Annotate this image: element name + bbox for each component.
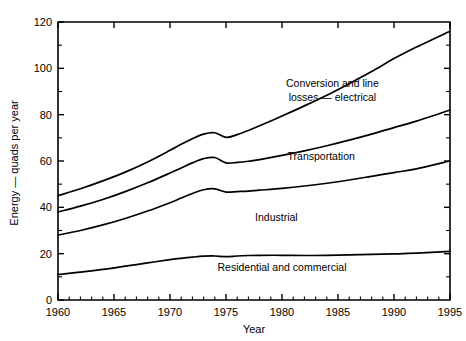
x-tick-label: 1995 — [438, 306, 462, 318]
series-annotation: Transportation — [288, 150, 355, 162]
x-axis-title: Year — [243, 323, 266, 335]
y-tick-label: 0 — [46, 294, 52, 306]
annotation-line-1: Residential and commercial — [218, 261, 347, 273]
x-tick-label: 1980 — [270, 306, 294, 318]
y-tick-label: 80 — [40, 109, 52, 121]
y-tick-label: 100 — [34, 62, 52, 74]
x-tick-label: 1970 — [158, 306, 182, 318]
x-tick-label: 1975 — [214, 306, 238, 318]
chart-canvas: 020406080100120 196019651970197519801985… — [0, 0, 466, 341]
annotation-line-1: Transportation — [288, 150, 355, 162]
x-tick-label: 1985 — [326, 306, 350, 318]
y-tick-label: 60 — [40, 155, 52, 167]
x-tick-label: 1960 — [46, 306, 70, 318]
energy-consumption-chart: 020406080100120 196019651970197519801985… — [0, 0, 466, 341]
series-annotation: Residential and commercial — [218, 261, 347, 273]
x-tick-label: 1965 — [102, 306, 126, 318]
y-tick-label: 120 — [34, 16, 52, 28]
chart-background — [0, 0, 466, 341]
y-tick-label: 20 — [40, 248, 52, 260]
y-axis-title: Energy — quads per year — [8, 100, 20, 226]
series-annotation: Industrial — [255, 211, 298, 223]
annotation-line-2: losses — electrical — [289, 91, 377, 103]
y-tick-label: 40 — [40, 201, 52, 213]
x-tick-label: 1990 — [382, 306, 406, 318]
annotation-line-1: Industrial — [255, 211, 298, 223]
annotation-line-1: Conversion and line — [286, 77, 379, 89]
